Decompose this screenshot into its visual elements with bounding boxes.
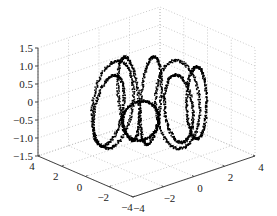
data-point xyxy=(124,88,125,89)
data-point xyxy=(139,125,140,126)
data-point xyxy=(93,109,94,110)
data-point xyxy=(163,68,164,69)
data-point xyxy=(134,101,135,102)
data-point xyxy=(154,106,155,107)
data-point xyxy=(165,119,166,120)
data-point xyxy=(153,136,154,137)
data-point xyxy=(137,94,138,95)
data-point xyxy=(114,132,115,133)
data-point xyxy=(204,120,205,121)
data-points xyxy=(90,55,208,150)
y-tick-label: −4 xyxy=(133,202,145,214)
data-point xyxy=(140,105,141,106)
data-point xyxy=(124,57,125,58)
data-point xyxy=(161,96,162,97)
data-point xyxy=(121,124,122,125)
data-point xyxy=(159,100,160,101)
data-point xyxy=(169,132,170,133)
data-point xyxy=(197,128,198,129)
data-point xyxy=(154,101,155,102)
data-point xyxy=(193,119,194,120)
data-point xyxy=(123,86,124,87)
data-point xyxy=(185,99,186,100)
data-point xyxy=(179,60,180,61)
data-point xyxy=(157,79,158,80)
data-point xyxy=(206,93,207,94)
data-point xyxy=(93,98,94,99)
data-point xyxy=(118,93,119,94)
data-point xyxy=(156,117,157,118)
data-point xyxy=(99,80,100,81)
data-point xyxy=(140,115,141,116)
data-point xyxy=(162,68,163,69)
data-point xyxy=(183,80,184,81)
z-tick-label: 0.5 xyxy=(19,78,33,90)
data-point xyxy=(179,142,180,143)
data-point xyxy=(92,100,93,101)
data-point xyxy=(95,89,96,90)
data-point xyxy=(96,84,97,85)
data-point xyxy=(145,68,146,69)
data-point xyxy=(129,70,130,71)
data-point xyxy=(179,62,180,63)
data-point xyxy=(158,109,159,110)
data-point xyxy=(134,103,135,104)
data-point xyxy=(165,102,166,103)
data-point xyxy=(175,61,176,62)
data-point xyxy=(121,79,122,80)
data-point xyxy=(144,70,145,71)
data-point xyxy=(95,103,96,104)
data-point xyxy=(163,94,164,95)
data-point xyxy=(156,129,157,130)
data-point xyxy=(115,60,116,61)
data-point xyxy=(94,95,95,96)
data-point xyxy=(123,99,124,100)
data-point xyxy=(164,65,165,66)
data-point xyxy=(117,75,118,76)
data-point xyxy=(117,60,118,61)
data-point xyxy=(198,124,199,125)
data-point xyxy=(137,87,138,88)
data-point xyxy=(132,65,133,66)
data-point xyxy=(196,138,197,139)
data-point xyxy=(199,112,200,113)
data-point xyxy=(156,104,157,105)
x-tick xyxy=(86,176,88,177)
data-point xyxy=(187,82,188,83)
data-point xyxy=(130,71,131,72)
x-tick-label: 4 xyxy=(29,160,35,172)
data-point xyxy=(188,68,189,69)
data-point xyxy=(186,107,187,108)
data-point xyxy=(115,136,116,137)
data-point xyxy=(203,132,204,133)
data-point xyxy=(124,98,125,99)
data-point xyxy=(117,101,118,102)
data-point xyxy=(146,69,147,70)
data-point xyxy=(93,127,94,128)
data-point xyxy=(164,104,165,105)
data-point xyxy=(197,66,198,67)
data-point xyxy=(130,121,131,122)
data-point xyxy=(138,90,139,91)
data-point xyxy=(97,82,98,83)
data-point xyxy=(136,131,137,132)
data-point xyxy=(206,97,207,98)
data-point xyxy=(154,105,155,106)
data-point xyxy=(198,101,199,102)
data-point xyxy=(160,108,161,109)
data-point xyxy=(191,99,192,100)
data-point xyxy=(185,66,186,67)
data-point xyxy=(204,85,205,86)
data-point xyxy=(137,134,138,135)
data-point xyxy=(140,112,141,113)
data-point xyxy=(170,61,171,62)
data-point xyxy=(168,62,169,63)
data-point xyxy=(192,124,193,125)
data-point xyxy=(186,119,187,120)
data-point xyxy=(197,87,198,88)
data-point xyxy=(124,103,125,104)
data-point xyxy=(169,128,170,129)
data-point xyxy=(141,132,142,133)
data-point xyxy=(132,84,133,85)
data-point xyxy=(97,100,98,101)
